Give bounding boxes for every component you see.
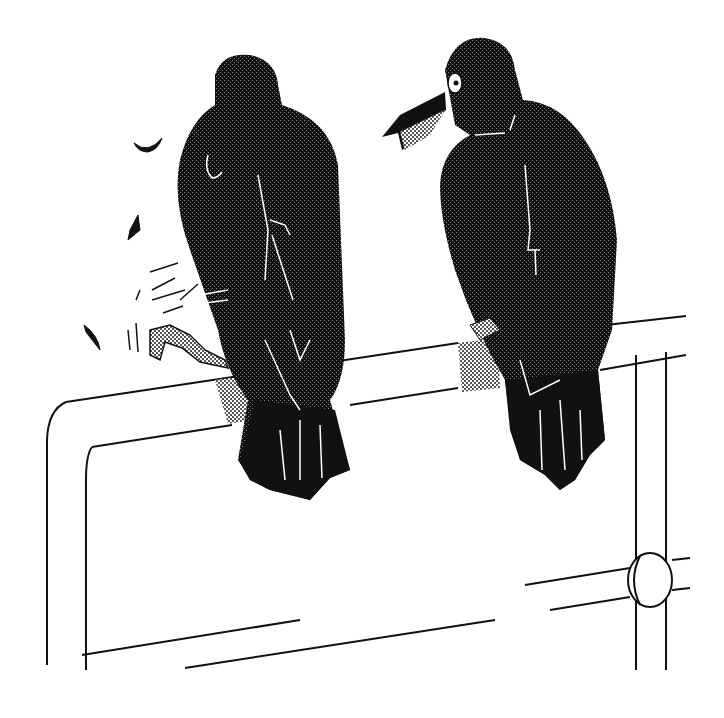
fence-lower-rail-2 (185, 620, 495, 668)
crows-on-fence-illustration (0, 0, 724, 718)
flying-bit-2 (128, 215, 140, 240)
fence-outer-post (47, 402, 66, 665)
crow-right (382, 38, 617, 490)
fence-inner-post (86, 447, 92, 670)
flying-bit-1 (134, 138, 162, 152)
illustration-canvas (0, 0, 724, 718)
fence-lower-rail-1 (82, 620, 300, 655)
crow-right-tail (505, 370, 605, 490)
crow-left-foot (150, 325, 228, 368)
flying-bit-3 (84, 325, 100, 350)
crow-left-tail (240, 400, 350, 500)
